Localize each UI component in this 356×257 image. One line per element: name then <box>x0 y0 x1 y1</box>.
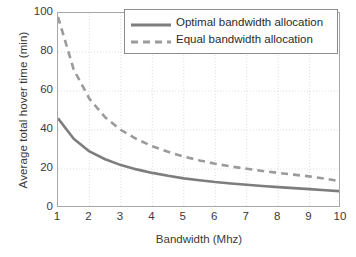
legend-swatch-dashed-icon <box>131 34 171 46</box>
legend-item-equal: Equal bandwidth allocation <box>131 31 331 48</box>
legend-label-optimal: Optimal bandwidth allocation <box>176 17 323 29</box>
x-axis-title: Bandwidth (Mhz) <box>57 233 341 245</box>
x-tick-label: 10 <box>325 211 355 223</box>
chart-legend: Optimal bandwidth allocation Equal bandw… <box>124 9 338 54</box>
x-tick-label: 5 <box>168 211 198 223</box>
legend-label-equal: Equal bandwidth allocation <box>176 34 313 46</box>
x-tick-label: 3 <box>105 211 135 223</box>
x-tick-label: 1 <box>42 211 72 223</box>
x-tick-label: 9 <box>294 211 324 223</box>
legend-swatch-solid-icon <box>131 17 171 29</box>
chart-figure: Average total hover time (min) 020406080… <box>0 0 356 257</box>
x-tick-label: 7 <box>231 211 261 223</box>
legend-item-optimal: Optimal bandwidth allocation <box>131 14 331 31</box>
x-tick-label: 6 <box>199 211 229 223</box>
x-tick-label: 8 <box>262 211 292 223</box>
x-tick-label: 4 <box>136 211 166 223</box>
x-tick-label: 2 <box>73 211 103 223</box>
